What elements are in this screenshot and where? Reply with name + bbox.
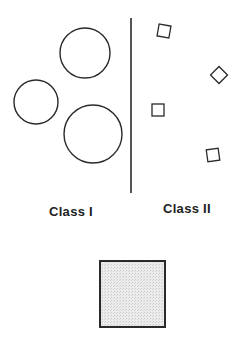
class-2-squares <box>152 24 227 162</box>
class-1-circle <box>64 105 122 163</box>
class-1-label: Class I <box>49 204 93 219</box>
class-1-circle <box>14 80 58 124</box>
class-2-square <box>157 24 171 38</box>
class-2-square <box>206 148 220 162</box>
class-1-circles <box>14 28 122 163</box>
classification-diagram <box>0 0 242 341</box>
class-2-label: Class II <box>163 201 211 216</box>
class-2-square <box>211 67 228 84</box>
class-1-circle <box>60 28 110 78</box>
query-object-square <box>100 261 165 327</box>
class-2-square <box>152 104 164 116</box>
